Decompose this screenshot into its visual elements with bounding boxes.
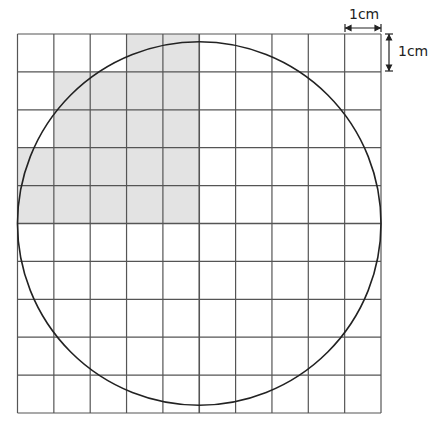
shaded-cell [127, 186, 163, 224]
vertical-scale-arrow [385, 34, 393, 71]
shaded-cell [90, 110, 126, 148]
shaded-cell [90, 186, 126, 224]
horizontal-scale-label: 1cm [349, 6, 379, 22]
shaded-cell [54, 72, 90, 110]
shaded-cell [54, 110, 90, 148]
shaded-cell [163, 186, 199, 224]
shaded-cell [54, 148, 90, 186]
shaded-cell [90, 72, 126, 110]
shaded-cell [18, 186, 54, 224]
vertical-scale-label: 1cm [398, 43, 428, 59]
grid-circle-diagram [0, 0, 441, 427]
horizontal-scale-arrow [345, 24, 381, 32]
shaded-cell [54, 186, 90, 224]
shaded-cell [163, 110, 199, 148]
shaded-cell [163, 72, 199, 110]
shaded-cell [163, 34, 199, 72]
shaded-cell [163, 148, 199, 186]
shaded-cell [90, 148, 126, 186]
shaded-cell [127, 72, 163, 110]
shaded-cell [127, 34, 163, 72]
shaded-cell [127, 110, 163, 148]
shaded-cell [127, 148, 163, 186]
